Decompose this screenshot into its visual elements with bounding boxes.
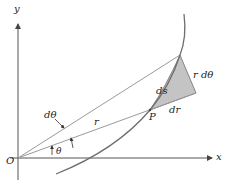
r-arrow	[71, 138, 73, 148]
x-axis-label: x	[216, 152, 222, 162]
r-dtheta-label: r dθ	[193, 70, 213, 80]
theta-label: θ	[56, 147, 61, 156]
r-label: r	[94, 117, 99, 127]
y-axis-label: y	[14, 4, 20, 14]
dr-label: dr	[169, 105, 180, 115]
point-p-label: P	[149, 112, 156, 122]
polar-arc-length-diagram	[0, 0, 229, 188]
ds-label: ds	[156, 86, 168, 96]
dtheta-pointer-arrow	[55, 119, 64, 128]
origin-label: O	[6, 156, 14, 166]
dtheta-label: dθ	[44, 110, 56, 120]
